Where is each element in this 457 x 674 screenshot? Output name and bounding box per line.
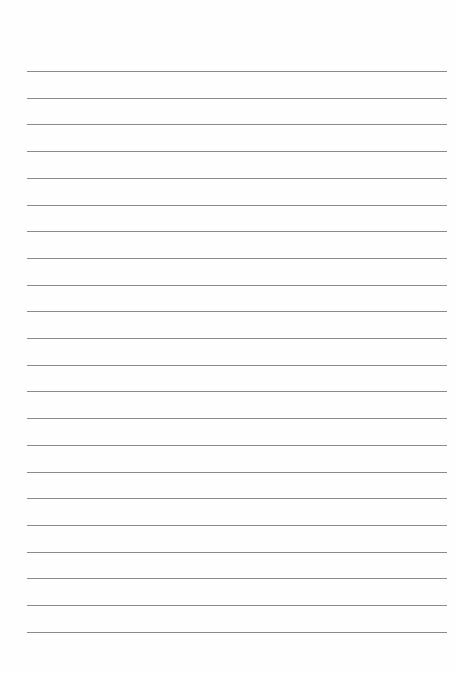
ruled-line: [27, 472, 447, 473]
ruled-line: [27, 258, 447, 259]
ruled-line: [27, 71, 447, 72]
ruled-line: [27, 525, 447, 526]
ruled-line: [27, 338, 447, 339]
ruled-line: [27, 205, 447, 206]
ruled-line: [27, 231, 447, 232]
ruled-line: [27, 151, 447, 152]
ruled-line: [27, 365, 447, 366]
ruled-line: [27, 391, 447, 392]
ruled-line: [27, 98, 447, 99]
ruled-line: [27, 552, 447, 553]
ruled-line: [27, 632, 447, 633]
ruled-line: [27, 605, 447, 606]
ruled-line: [27, 445, 447, 446]
ruled-line: [27, 418, 447, 419]
ruled-line: [27, 178, 447, 179]
ruled-line: [27, 285, 447, 286]
lined-paper-page: [0, 0, 457, 674]
ruled-line: [27, 578, 447, 579]
ruled-line: [27, 124, 447, 125]
ruled-line: [27, 311, 447, 312]
ruled-line: [27, 498, 447, 499]
